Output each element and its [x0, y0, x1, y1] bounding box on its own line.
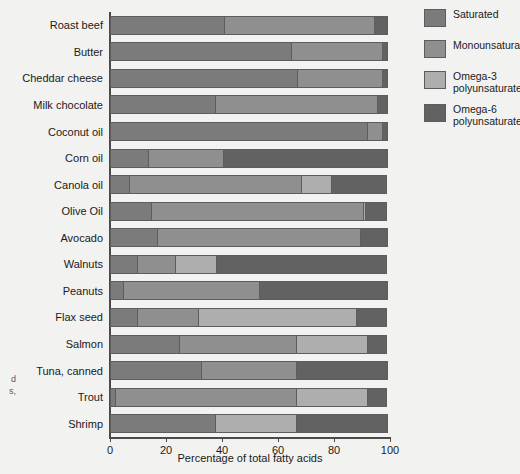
bar-segment[interactable] [110, 281, 124, 300]
bar-row: Cheddar cheese [110, 69, 390, 88]
bar-segment[interactable] [356, 308, 387, 327]
legend-item[interactable]: Saturated [424, 8, 520, 30]
category-label: Coconut oil [48, 126, 103, 138]
bar-segment[interactable] [224, 16, 375, 35]
stacked-bar[interactable] [110, 308, 387, 327]
bar-segment[interactable] [201, 361, 296, 380]
bar-segment[interactable] [157, 228, 361, 247]
bar-segment[interactable] [110, 308, 138, 327]
category-label: Peanuts [63, 285, 103, 297]
category-label: Milk chocolate [33, 99, 103, 111]
bar-segment[interactable] [110, 42, 292, 61]
bar-segment[interactable] [296, 388, 369, 407]
bar-segment[interactable] [331, 175, 387, 194]
stacked-bar[interactable] [110, 122, 388, 141]
bar-row: Shrimp [110, 414, 390, 433]
bar-row: Milk chocolate [110, 95, 390, 114]
legend-item[interactable]: Omega-6 polyunsaturated [424, 103, 520, 127]
bar-row: Tuna, canned [110, 361, 390, 380]
bar-segment[interactable] [382, 122, 388, 141]
category-label: Roast beef [50, 19, 103, 31]
bar-segment[interactable] [179, 335, 297, 354]
bar-segment[interactable] [110, 361, 202, 380]
bar-segment[interactable] [129, 175, 303, 194]
category-label: Olive Oil [61, 205, 103, 217]
bar-segment[interactable] [110, 16, 225, 35]
bar-row: Walnuts [110, 255, 390, 274]
stacked-bar[interactable] [110, 255, 387, 274]
bar-segment[interactable] [110, 149, 149, 168]
stacked-bar[interactable] [110, 16, 388, 35]
bar-segment[interactable] [296, 361, 388, 380]
bar-segment[interactable] [259, 281, 388, 300]
stacked-bar[interactable] [110, 149, 388, 168]
x-tick-mark [278, 437, 279, 442]
bar-segment[interactable] [215, 95, 377, 114]
bar-row: Peanuts [110, 281, 390, 300]
bar-segment[interactable] [110, 255, 138, 274]
bar-segment[interactable] [110, 335, 180, 354]
bar-row: Canola oil [110, 175, 390, 194]
bar-row: Olive Oil [110, 202, 390, 221]
bar-segment[interactable] [382, 42, 388, 61]
bar-segment[interactable] [137, 255, 176, 274]
bar-segment[interactable] [110, 69, 298, 88]
bar-segment[interactable] [110, 95, 216, 114]
stacked-bar[interactable] [110, 228, 388, 247]
bar-segment[interactable] [296, 335, 369, 354]
stacked-bar[interactable] [110, 414, 388, 433]
legend-label: Omega-6 polyunsaturated [453, 103, 520, 127]
bar-segment[interactable] [367, 122, 384, 141]
stacked-bar[interactable] [110, 202, 387, 221]
bar-segment[interactable] [367, 335, 387, 354]
bar-segment[interactable] [296, 414, 388, 433]
stacked-bar[interactable] [110, 388, 387, 407]
stacked-bar[interactable] [110, 335, 387, 354]
bar-segment[interactable] [110, 202, 152, 221]
legend-swatch [424, 9, 446, 27]
legend: SaturatedMonounsaturatedOmega-3 polyunsa… [424, 8, 520, 136]
bar-segment[interactable] [360, 228, 388, 247]
bar-segment[interactable] [198, 308, 358, 327]
category-label: Salmon [66, 338, 103, 350]
bar-segment[interactable] [151, 202, 364, 221]
legend-item[interactable]: Omega-3 polyunsaturated [424, 70, 520, 94]
legend-label: Omega-3 polyunsaturated [453, 70, 520, 94]
legend-item[interactable]: Monounsaturated [424, 39, 520, 61]
bar-segment[interactable] [123, 281, 260, 300]
legend-label: Saturated [453, 8, 520, 21]
x-tick-mark [222, 437, 223, 442]
bar-segment[interactable] [365, 202, 387, 221]
bar-segment[interactable] [110, 122, 368, 141]
stacked-bar[interactable] [110, 69, 388, 88]
bar-segment[interactable] [382, 69, 388, 88]
bar-segment[interactable] [301, 175, 332, 194]
stacked-bar[interactable] [110, 361, 388, 380]
bar-segment[interactable] [175, 255, 217, 274]
bar-segment[interactable] [223, 149, 388, 168]
category-label: Shrimp [68, 418, 103, 430]
bar-segment[interactable] [291, 42, 383, 61]
bar-segment[interactable] [110, 175, 130, 194]
bar-row: Avocado [110, 228, 390, 247]
category-label: Canola oil [54, 179, 103, 191]
stacked-bar[interactable] [110, 281, 388, 300]
category-label: Trout [78, 391, 103, 403]
legend-label: Monounsaturated [453, 39, 520, 52]
bar-segment[interactable] [110, 414, 216, 433]
bar-segment[interactable] [374, 16, 388, 35]
stacked-bar[interactable] [110, 42, 388, 61]
bar-segment[interactable] [115, 388, 297, 407]
bar-segment[interactable] [215, 414, 296, 433]
bar-segment[interactable] [148, 149, 224, 168]
bar-segment[interactable] [297, 69, 384, 88]
stacked-bar[interactable] [110, 175, 387, 194]
x-axis-line [109, 437, 391, 439]
bar-row: Butter [110, 42, 390, 61]
bar-segment[interactable] [216, 255, 387, 274]
bar-segment[interactable] [137, 308, 199, 327]
bar-segment[interactable] [110, 228, 158, 247]
bar-segment[interactable] [377, 95, 388, 114]
stacked-bar[interactable] [110, 95, 388, 114]
bar-segment[interactable] [367, 388, 387, 407]
